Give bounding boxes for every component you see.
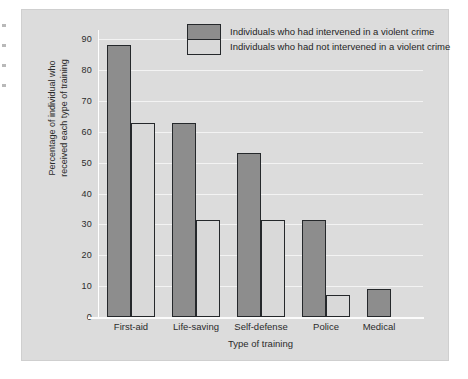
x-axis-line (88, 317, 424, 319)
x-axis-tick-labels: First-aidLife-savingSelf-defensePoliceMe… (98, 321, 423, 337)
y-axis-title-line-1: Percentage of individual who (46, 38, 58, 198)
x-axis-tick-label: Life-saving (173, 321, 219, 332)
scan-edge-mark (2, 24, 6, 27)
bar (367, 289, 391, 317)
legend-label-not-intervened: Individuals who had not intervened in a … (230, 39, 450, 54)
scan-edge-mark (2, 84, 6, 87)
bar (326, 295, 350, 317)
legend-swatch-intervened (188, 25, 220, 40)
bar (237, 153, 261, 317)
scanned-page: Percentage of individual who received ea… (0, 0, 468, 379)
y-axis-ticks: 0102030405060708090 (58, 30, 92, 317)
y-axis-tick-label: 60 (62, 127, 92, 137)
legend-label-intervened: Individuals who had intervened in a viol… (230, 24, 450, 39)
bar (196, 220, 220, 317)
chart-legend: Individuals who had intervened in a viol… (187, 24, 450, 55)
chart-figure: Percentage of individual who received ea… (21, 9, 449, 361)
legend-swatch-not-intervened (188, 40, 220, 54)
y-axis-tick-label: 90 (62, 34, 92, 44)
y-axis-line (98, 30, 99, 318)
x-axis-title: Type of training (98, 338, 423, 349)
bar (261, 220, 285, 317)
y-axis-tick-label: 50 (62, 158, 92, 168)
legend-label-group: Individuals who had intervened in a viol… (230, 24, 450, 54)
gridline (98, 101, 423, 102)
bar (172, 123, 196, 317)
y-axis-tick-label: 10 (62, 281, 92, 291)
scan-edge-mark (2, 64, 6, 67)
gridline (98, 70, 423, 71)
y-axis-tick-label: 30 (62, 219, 92, 229)
x-axis-tick-label: Self-defense (234, 321, 287, 332)
plot-area (98, 30, 423, 317)
x-axis-tick-label: Police (313, 321, 339, 332)
bar (107, 45, 131, 317)
bar (131, 123, 155, 317)
bar (302, 220, 326, 317)
y-axis-tick-label: 70 (62, 96, 92, 106)
y-axis-tick-label: 40 (62, 189, 92, 199)
scan-edge-mark (2, 44, 6, 47)
legend-swatch-group (187, 24, 221, 55)
y-axis-tick-label: 80 (62, 65, 92, 75)
y-axis-tick-label: 20 (62, 250, 92, 260)
x-axis-tick-label: First-aid (114, 321, 148, 332)
x-axis-tick-label: Medical (363, 321, 396, 332)
